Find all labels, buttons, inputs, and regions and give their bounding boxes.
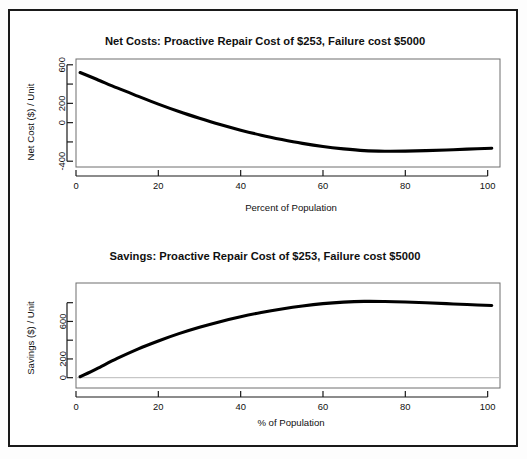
net-costs-plot-area-x-tick-label: 0 — [73, 180, 78, 191]
savings-plot-area-y-tick-label: 200 — [57, 351, 68, 367]
savings-title: Savings: Proactive Repair Cost of $253, … — [110, 250, 421, 262]
savings-plot-area-y-tick-label: 600 — [57, 314, 68, 330]
net-costs-title: Net Costs: Proactive Repair Cost of $253… — [105, 35, 425, 47]
net-costs-plot-area-y-tick-label: 200 — [57, 96, 68, 112]
savings-plot-area-y-tick-label: 0 — [57, 375, 68, 380]
net-costs-x-axis-label: Percent of Population — [245, 202, 337, 213]
net-costs-plot-area-y-tick-label: -400 — [57, 152, 68, 171]
net-costs-plot-area: -4000200600020406080100 — [57, 57, 501, 191]
net-costs-y-axis-label: Net Cost ($) / Unit — [25, 83, 36, 160]
savings-plot-area-x-tick-label: 80 — [400, 401, 410, 412]
savings-plot-area-x-tick-label: 100 — [480, 401, 496, 412]
chart-panel-net-costs: Net Costs: Proactive Repair Cost of $253… — [10, 11, 520, 230]
net-costs-plot-area-x-tick-label: 40 — [235, 180, 245, 191]
savings-plot-area-x-tick-label: 0 — [73, 401, 78, 412]
savings-chart-svg: Savings: Proactive Repair Cost of $253, … — [10, 230, 520, 445]
savings-plot-area: 0200600020406080100 — [57, 283, 501, 412]
chart-panel-savings: Savings: Proactive Repair Cost of $253, … — [10, 230, 520, 445]
figure-outer-frame: Net Costs: Proactive Repair Cost of $253… — [8, 9, 518, 447]
net-costs-plot-area-y-tick-label: 600 — [57, 57, 68, 73]
net-costs-plot-area-x-tick-label: 100 — [480, 180, 496, 191]
net-costs-plot-area-y-tick-label: 0 — [57, 120, 68, 125]
net-costs-plot-area-data-curve — [80, 73, 492, 152]
savings-plot-area-x-tick-label: 60 — [318, 401, 328, 412]
net-costs-plot-area-x-tick-label: 60 — [318, 180, 328, 191]
savings-plot-area-data-curve — [80, 301, 492, 376]
net-costs-plot-area-x-tick-label: 80 — [400, 180, 410, 191]
savings-plot-area-box — [76, 283, 500, 388]
savings-x-axis-label: % of Population — [257, 417, 324, 428]
savings-plot-area-x-tick-label: 20 — [153, 401, 163, 412]
savings-plot-area-x-tick-label: 40 — [235, 401, 245, 412]
savings-y-axis-label: Savings ($) / Unit — [25, 301, 36, 375]
net-costs-chart-svg: Net Costs: Proactive Repair Cost of $253… — [10, 11, 520, 230]
net-costs-plot-area-x-tick-label: 20 — [153, 180, 163, 191]
screenshot-page: Net Costs: Proactive Repair Cost of $253… — [0, 0, 527, 459]
